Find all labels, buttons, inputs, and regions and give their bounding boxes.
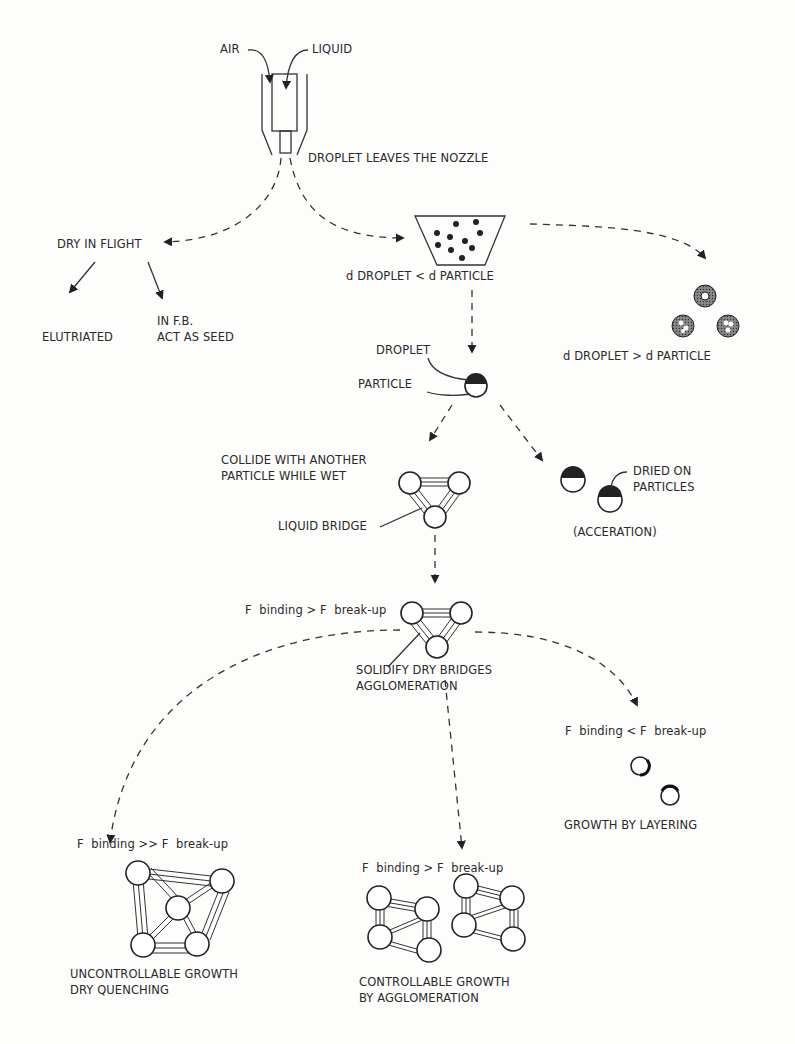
- elutriated-label: ELUTRIATED: [42, 329, 113, 345]
- large-droplet-label: d DROPLET > d PARTICLE: [563, 348, 711, 364]
- liquid-bridge-label: LIQUID BRIDGE: [278, 518, 367, 534]
- encapsulated-particles-icon: [672, 285, 739, 337]
- air-label: AIR: [220, 41, 240, 57]
- nozzle-exit-label: DROPLET LEAVES THE NOZZLE: [308, 150, 488, 166]
- uncontrolled-agglomerate-icon: [126, 861, 234, 957]
- accreted-particles-icon: [561, 466, 627, 512]
- binding-caption: SOLIDIFY DRY BRIDGES AGGLOMERATION: [356, 662, 492, 694]
- outcome-uncontrolled-condition: F binding >> F break-up: [77, 836, 228, 852]
- outcome-controlled-condition: F binding > F break-up: [362, 860, 503, 876]
- dry-in-flight-label: DRY IN FLIGHT: [57, 236, 142, 252]
- small-droplet-label: d DROPLET < d PARTICLE: [346, 268, 494, 284]
- dried-on-label: DRIED ON PARTICLES: [633, 463, 695, 495]
- outcome-layering-condition: F binding < F break-up: [565, 723, 706, 739]
- particle-label: PARTICLE: [358, 376, 412, 392]
- wetted-particle-icon: [427, 358, 487, 397]
- liquid-bridge-cluster-icon: [380, 472, 470, 528]
- droplet-label: DROPLET: [376, 342, 430, 358]
- layered-particles-icon: [631, 757, 679, 805]
- liquid-label: LIQUID: [312, 41, 352, 57]
- accretion-caption: (ACCERATION): [573, 524, 657, 540]
- controlled-agglomerate-icon: [367, 874, 525, 962]
- arrow-to-dry-in-flight: [165, 158, 281, 242]
- binding-condition: F binding > F break-up: [245, 602, 386, 618]
- dry-bridge-cluster-icon: [388, 602, 472, 667]
- droplet-spray-icon: [415, 216, 505, 265]
- outcome-controlled-caption: CONTROLLABLE GROWTH BY AGGLOMERATION: [359, 974, 510, 1006]
- outcome-layering-caption: GROWTH BY LAYERING: [564, 817, 697, 833]
- outcome-uncontrolled-caption: UNCONTROLLABLE GROWTH DRY QUENCHING: [70, 966, 238, 998]
- diagram-canvas: AIR LIQUID DROPLET LEAVES THE NOZZLE DRY…: [0, 0, 795, 1044]
- seed-label: IN F.B. ACT AS SEED: [157, 313, 234, 345]
- collision-label: COLLIDE WITH ANOTHER PARTICLE WHILE WET: [221, 452, 367, 484]
- nozzle-icon: [248, 50, 308, 155]
- arrow-to-small-droplet: [290, 158, 403, 238]
